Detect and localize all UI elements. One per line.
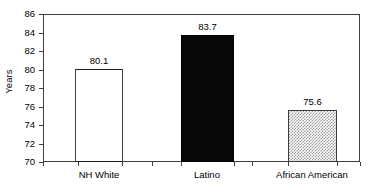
y-tick-label: 76 [24, 100, 35, 114]
x-tick-mark [43, 162, 44, 166]
y-tick-label: 80 [24, 63, 35, 77]
y-tick-label: 84 [24, 26, 35, 40]
bar[interactable] [288, 110, 337, 162]
x-tick-mark [78, 162, 79, 166]
x-tick-mark [360, 162, 361, 166]
x-category-label: African American [252, 169, 372, 181]
x-tick-mark [181, 162, 182, 166]
bar-value-label: 83.7 [161, 21, 254, 33]
bar[interactable] [181, 35, 234, 162]
y-axis-title: Years [0, 0, 16, 162]
x-tick-mark [337, 162, 338, 166]
x-tick-mark [152, 162, 153, 166]
bar-edge-line [75, 69, 76, 162]
bar-value-label: 75.6 [268, 96, 357, 108]
y-tick-label: 74 [24, 118, 35, 132]
x-category-label: NH White [39, 169, 159, 181]
x-tick-mark [252, 162, 253, 166]
y-tick-label: 72 [24, 137, 35, 151]
y-tick-label: 78 [24, 81, 35, 95]
y-tick-label: 86 [24, 7, 35, 21]
y-axis-title-label: Years [3, 69, 14, 93]
bar-chart: Years 868482807876747270 80.183.775.6 NH… [0, 0, 372, 195]
x-category-label: Latino [147, 169, 267, 181]
x-tick-mark [288, 162, 289, 166]
bar-edge-line [122, 69, 123, 162]
x-tick-mark [122, 162, 123, 166]
bar[interactable] [75, 69, 123, 162]
y-tick-label: 70 [24, 155, 35, 169]
bar-value-label: 80.1 [55, 55, 143, 67]
x-tick-mark [234, 162, 235, 166]
y-tick-label: 82 [24, 44, 35, 58]
